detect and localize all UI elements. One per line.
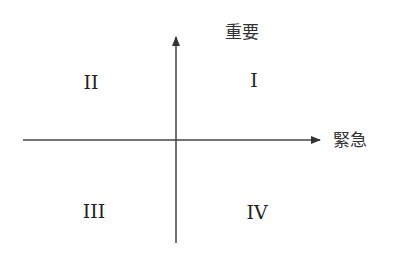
quadrant-label-ii: II xyxy=(83,73,98,92)
quadrant-label-iv: IV xyxy=(246,203,267,222)
quadrant-label-i: I xyxy=(250,71,258,90)
horizontal-axis-label: 緊急 xyxy=(333,132,367,149)
quadrant-diagram: 重要 緊急 I II III IV xyxy=(0,0,394,254)
quadrant-label-iii: III xyxy=(83,202,106,221)
axes xyxy=(0,0,394,254)
vertical-axis-label: 重要 xyxy=(225,24,259,41)
